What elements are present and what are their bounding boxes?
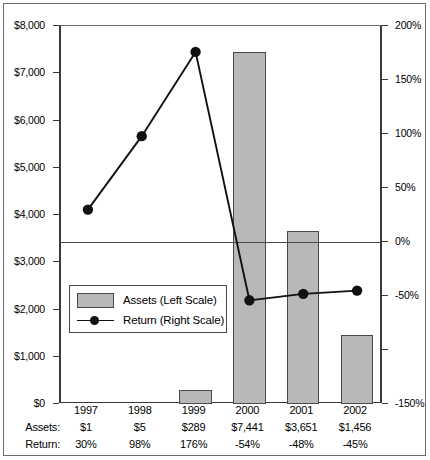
table-year-1998: 1998 [113, 404, 167, 416]
right-axis-tick-mark [382, 349, 388, 350]
left-axis-tick-mark [53, 403, 59, 404]
left-axis-tick-mark [53, 120, 59, 121]
right-axis-tick-label: 100% [395, 127, 421, 139]
left-axis-tick-mark [53, 261, 59, 262]
left-axis-tick-label: $3,000 [14, 255, 45, 267]
return-marker-2002 [352, 285, 362, 295]
table-year-2002: 2002 [328, 404, 382, 416]
right-axis-tick-label: 150% [395, 73, 421, 85]
table-year-2000: 2000 [220, 404, 274, 416]
right-axis-tick-mark [382, 295, 388, 296]
table-row-years: 199719981999200020012002 [8, 404, 423, 420]
return-marker-1999 [190, 47, 200, 57]
left-axis-tick-mark [53, 167, 59, 168]
table-assets-1997: $1 [59, 421, 113, 433]
left-axis-tick-mark [53, 309, 59, 310]
table-return-2000: -54% [220, 438, 274, 450]
right-axis-tick-mark [382, 133, 388, 134]
left-axis: $0$1,000$2,000$3,000$4,000$5,000$6,000$7… [4, 4, 54, 460]
table-assets-1998: $5 [113, 421, 167, 433]
table-return-1998: 98% [113, 438, 167, 450]
table-assets-1999: $289 [167, 421, 221, 433]
left-axis-tick-label: $5,000 [14, 161, 45, 173]
legend-line-dot-icon [77, 313, 114, 328]
table-return-1997: 30% [59, 438, 113, 450]
return-line-series [61, 26, 380, 402]
plot-area: Assets (Left Scale) Return (Right Scale) [59, 25, 382, 403]
left-axis-tick-label: $2,000 [14, 303, 45, 315]
table-assets-2002: $1,456 [328, 421, 382, 433]
table-row-return: Return: 30%98%176%-54%-48%-45% [8, 438, 423, 454]
legend-label-return: Return (Right Scale) [123, 314, 224, 326]
return-marker-2000 [244, 295, 254, 305]
table-label-return: Return: [8, 438, 60, 450]
return-line-path [88, 52, 357, 300]
right-axis-tick-mark [382, 79, 388, 80]
left-axis-tick-mark [53, 25, 59, 26]
table-assets-2001: $3,651 [274, 421, 328, 433]
left-axis-tick-label: $1,000 [14, 350, 45, 362]
table-return-2001: -48% [274, 438, 328, 450]
left-axis-tick-label: $7,000 [14, 66, 45, 78]
legend-swatch-icon [77, 293, 114, 308]
legend-label-assets: Assets (Left Scale) [123, 294, 217, 306]
table-return-1999: 176% [167, 438, 221, 450]
right-axis-tick-label: 200% [395, 19, 421, 31]
right-axis-tick-mark [382, 187, 388, 188]
table-year-1999: 1999 [167, 404, 221, 416]
return-marker-1997 [83, 204, 93, 214]
right-axis-tick-label: 0% [395, 235, 410, 247]
table-year-2001: 2001 [274, 404, 328, 416]
left-axis-tick-label: $8,000 [14, 19, 45, 31]
data-table: 199719981999200020012002 Assets: $1$5$28… [8, 404, 423, 454]
left-axis-tick-mark [53, 214, 59, 215]
legend-item-assets: Assets (Left Scale) [77, 290, 217, 310]
return-marker-1998 [137, 131, 147, 141]
table-assets-2000: $7,441 [220, 421, 274, 433]
table-label-assets: Assets: [8, 421, 60, 433]
table-return-2002: -45% [328, 438, 382, 450]
table-row-assets: Assets: $1$5$289$7,441$3,651$1,456 [8, 421, 423, 437]
right-axis-tick-mark [382, 241, 388, 242]
chart-figure: $0$1,000$2,000$3,000$4,000$5,000$6,000$7… [3, 3, 426, 456]
right-axis-tick-label: 50% [395, 181, 415, 193]
return-marker-2001 [298, 289, 308, 299]
legend: Assets (Left Scale) Return (Right Scale) [69, 285, 227, 333]
left-axis-tick-label: $6,000 [14, 114, 45, 126]
right-axis-tick-mark [382, 25, 388, 26]
left-axis-tick-mark [53, 356, 59, 357]
left-axis-tick-mark [53, 72, 59, 73]
right-axis-tick-label: -50% [395, 289, 419, 301]
table-year-1997: 1997 [59, 404, 113, 416]
left-axis-tick-label: $4,000 [14, 208, 45, 220]
right-axis: -150%-50%0%50%100%150%200% [382, 4, 430, 460]
right-axis-tick-mark [382, 403, 388, 404]
legend-item-return: Return (Right Scale) [77, 310, 224, 330]
